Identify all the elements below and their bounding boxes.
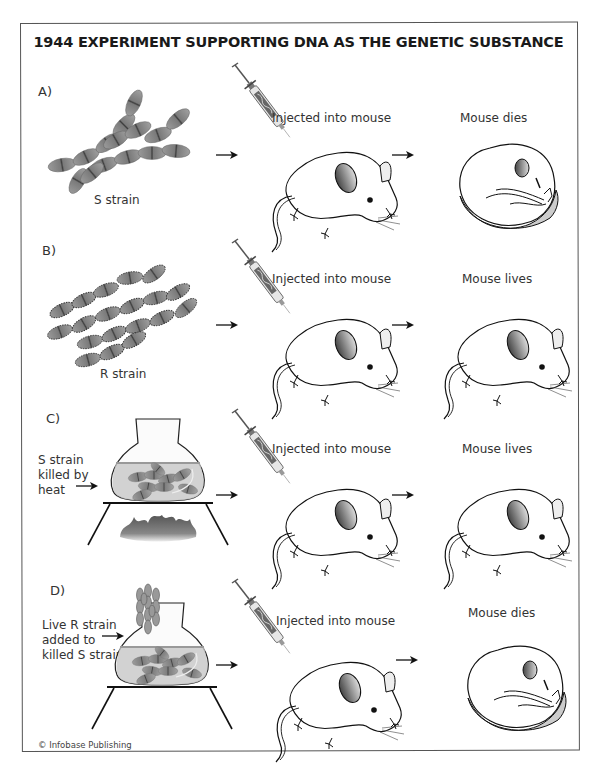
live-mouse-icon: [272, 648, 412, 768]
source-caption: R strain: [100, 367, 146, 381]
result-caption: Mouse dies: [460, 111, 527, 125]
arrow-icon: [74, 481, 100, 491]
arrow-icon: [214, 490, 244, 500]
step-caption: Injected into mouse: [272, 111, 391, 125]
step-caption: Injected into mouse: [272, 272, 391, 286]
r-strain-bacteria-icon: [50, 268, 200, 368]
live-mouse-icon: [268, 305, 408, 425]
panel-label: C): [46, 411, 60, 426]
arrow-icon: [390, 150, 420, 160]
copyright-credit: © Infobase Publishing: [38, 740, 132, 750]
dead-mouse-icon: [450, 138, 570, 238]
s-strain-bacteria-icon: [40, 85, 200, 195]
panel-label: D): [50, 583, 65, 598]
arrow-icon: [214, 660, 244, 670]
live-mouse-icon: [440, 475, 580, 595]
panel-label: B): [42, 243, 56, 258]
arrow-icon: [394, 655, 424, 665]
arrow-icon: [390, 490, 420, 500]
syringe-icon: [232, 62, 312, 142]
heated-flask-icon: [108, 419, 228, 579]
flame-icon: [120, 515, 196, 542]
arrow-icon: [390, 320, 420, 330]
live-mouse-icon: [268, 475, 408, 595]
r-strain-column-icon: [130, 585, 170, 635]
source-caption: S strain: [94, 193, 140, 207]
figure-title: 1944 EXPERIMENT SUPPORTING DNA AS THE GE…: [0, 34, 597, 50]
step-caption: Injected into mouse: [272, 442, 391, 456]
dead-mouse-icon: [458, 640, 578, 740]
result-caption: Mouse dies: [468, 606, 535, 620]
result-caption: Mouse lives: [462, 442, 532, 456]
result-caption: Mouse lives: [462, 272, 532, 286]
source-caption: S strain killed by heat: [38, 453, 88, 498]
step-caption: Injected into mouse: [276, 614, 395, 628]
live-mouse-icon: [440, 305, 580, 425]
arrow-icon: [214, 320, 244, 330]
arrow-icon: [214, 150, 244, 160]
